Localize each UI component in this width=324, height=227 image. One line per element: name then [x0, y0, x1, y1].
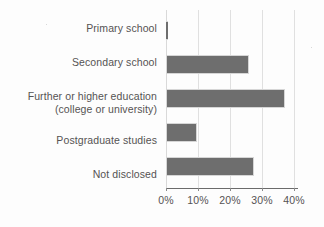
x-tick-label-20: 20%	[215, 194, 245, 207]
category-label-axis: Primary school Secondary school Further …	[0, 0, 163, 188]
x-tick-mark-20	[230, 188, 231, 191]
category-label-postgraduate-studies: Postgraduate studies	[0, 134, 157, 147]
x-tick-mark-30	[262, 188, 263, 191]
x-tick-label-30: 30%	[247, 194, 277, 207]
plot-area	[166, 10, 298, 188]
gridline-40	[294, 10, 295, 188]
category-label-secondary-school: Secondary school	[0, 56, 157, 69]
x-tick-label-0: 0%	[151, 194, 181, 207]
category-label-further-higher-education: Further or higher education (college or …	[0, 90, 157, 115]
bar-further-higher-education	[166, 89, 285, 108]
category-label-line2: (college or university)	[0, 103, 157, 116]
category-label-line1: Postgraduate studies	[56, 134, 157, 146]
category-label-line1: Further or higher education	[28, 90, 157, 102]
x-tick-label-10: 10%	[183, 194, 213, 207]
category-label-line1: Not disclosed	[93, 168, 157, 180]
bar-primary-school	[166, 21, 168, 40]
category-label-primary-school: Primary school	[0, 22, 157, 35]
x-axis-line	[166, 188, 298, 189]
category-label-not-disclosed: Not disclosed	[0, 168, 157, 181]
category-label-line1: Primary school	[86, 22, 157, 34]
bar-secondary-school	[166, 55, 249, 74]
x-tick-mark-40	[294, 188, 295, 191]
x-tick-label-40: 40%	[279, 194, 309, 207]
x-tick-mark-0	[166, 188, 167, 191]
category-label-line1: Secondary school	[72, 56, 157, 68]
bar-postgraduate-studies	[166, 123, 197, 142]
scan-speckle	[46, 24, 47, 25]
bar-not-disclosed	[166, 157, 254, 176]
x-tick-mark-10	[198, 188, 199, 191]
bar-chart: Primary school Secondary school Further …	[0, 0, 324, 227]
scan-speckle	[311, 47, 312, 48]
